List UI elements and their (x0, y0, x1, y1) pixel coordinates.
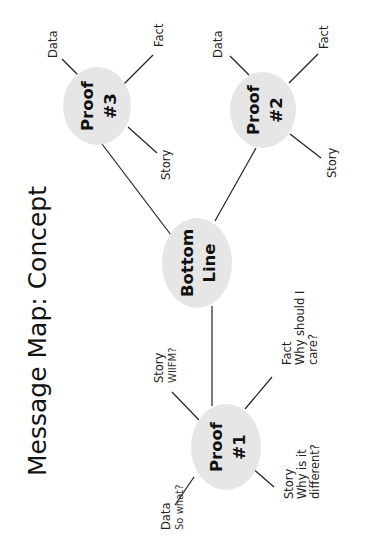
node-bottom-line-line1: Bottom (178, 229, 197, 297)
proof-3-leaf-data: Data (46, 31, 60, 58)
node-proof-2: Proof #2 (230, 72, 296, 148)
proof-1-leaf-data-sub: So what? (174, 484, 185, 530)
edge-proof2-story (290, 134, 321, 158)
node-proof-1-line2: #1 (230, 434, 249, 459)
node-proof-1: Proof #1 (191, 404, 261, 490)
proof-3-leaf-fact: Fact (152, 23, 166, 47)
diagram-title: Message Map: Concept (23, 186, 52, 476)
proof-2-leaf-story: Story (325, 147, 339, 178)
node-proof-3: Proof #3 (63, 67, 131, 145)
node-proof-1-line1: Proof (207, 421, 226, 472)
proof-1-leaf-story-wiifm: Story (152, 352, 166, 383)
proof-1-leaf-fact: Fact (280, 341, 294, 365)
edge-proof1-story-wiifm (172, 392, 199, 420)
edge-proof3-fact (123, 55, 153, 85)
proof-2-leaf-data: Data (211, 31, 225, 58)
node-proof-3-line1: Proof (78, 80, 97, 131)
proof-2-leaf-fact: Fact (317, 25, 331, 49)
node-bottom-line-line2: Line (200, 243, 219, 282)
proof-1-leaf-fact-sub1: Why should I (293, 291, 307, 365)
node-proof-3-line2: #3 (101, 93, 120, 118)
proof-1-leaf-data: Data (159, 503, 173, 530)
proof-1-leaf-story-different-sub2: different? (308, 444, 322, 499)
edge-proof3-story (128, 127, 157, 153)
node-bottom-line: Bottom Line (162, 218, 232, 308)
message-map-diagram: Message Map: Concept Bottom Line Proof #… (0, 0, 365, 547)
edge-proof2-fact (289, 54, 318, 83)
proof-1-leaf-story-wiifm-sub: WIIFM? (167, 348, 178, 383)
proof-1-leaf-story-different-sub1: Why is it (295, 449, 309, 499)
edge-proof1-fact (245, 377, 272, 409)
proof-3-leaf-story: Story (159, 149, 173, 180)
edge-bottomline-proof2 (215, 148, 256, 221)
edge-proof3-data (62, 59, 78, 75)
proof-1-leaf-fact-sub2: care? (306, 334, 320, 365)
node-proof-2-line1: Proof (244, 84, 263, 135)
edge-proof2-data (230, 56, 249, 75)
node-proof-2-line2: #2 (267, 97, 286, 122)
proof-1-leaf-story-different: Story (282, 468, 296, 499)
